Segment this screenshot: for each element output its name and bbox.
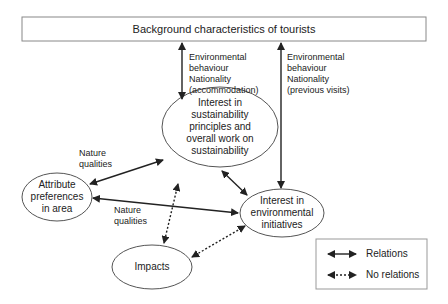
label-line: (previous visits) (287, 85, 350, 96)
legend-box (316, 239, 427, 289)
label-line: Nationality (287, 74, 350, 85)
label-line: Interest in (162, 97, 278, 109)
label-line: overall work on (162, 133, 278, 145)
label-line: Interest in (240, 195, 324, 207)
edge-label-attribute-sustainability: Nature qualities (79, 148, 112, 170)
edge-label-attribute-environmental: Nature qualities (114, 205, 147, 227)
label-line: sustainability (162, 109, 278, 121)
edge-sustainability-impacts (164, 184, 178, 243)
node-impacts-label: Impacts (112, 261, 192, 273)
label-line: qualities (114, 216, 147, 227)
label-line: Impacts (112, 261, 192, 273)
legend-no-relations-label: No relations (366, 269, 419, 281)
label-line: Environmental (287, 52, 350, 63)
edge-label-background-environmental: Environmental behaviour Nationality (pre… (287, 52, 350, 96)
label-line: in area (22, 203, 92, 215)
node-environmental-label: Interest in environmental initiatives (240, 195, 324, 231)
label-line: Nationality (189, 74, 259, 85)
label-line: preferences (22, 191, 92, 203)
label-line: Attribute (22, 179, 92, 191)
background-box-label: Background characteristics of tourists (22, 17, 426, 41)
label-line: behaviour (189, 63, 259, 74)
edge-environmental-impacts (192, 226, 245, 257)
label-line: Nature (79, 148, 112, 159)
label-line: Nature (114, 205, 147, 216)
label-line: environmental (240, 207, 324, 219)
edge-label-background-sustainability: Environmental behaviour Nationality (acc… (189, 52, 259, 96)
label-line: Environmental (189, 52, 259, 63)
label-line: principles and (162, 121, 278, 133)
legend-relations-label: Relations (366, 248, 408, 260)
label-line: qualities (79, 159, 112, 170)
edge-sustainability-environmental (222, 171, 247, 195)
label-line: sustainability (162, 145, 278, 157)
label-line: initiatives (240, 219, 324, 231)
node-attribute-label: Attribute preferences in area (22, 179, 92, 215)
node-sustainability-label: Interest in sustainability principles an… (162, 97, 278, 157)
label-line: behaviour (287, 63, 350, 74)
label-line: (accommodation) (189, 85, 259, 96)
